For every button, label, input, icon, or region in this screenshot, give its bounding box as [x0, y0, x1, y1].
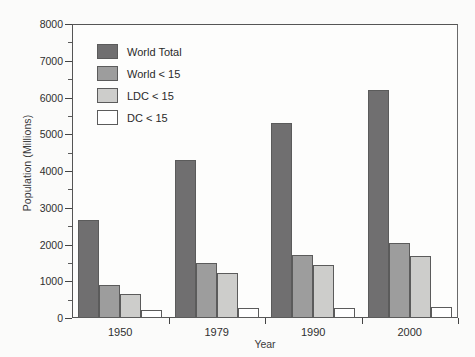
x-axis-tick-label: 1950 — [80, 326, 160, 338]
y-axis-tick-mark — [65, 98, 72, 99]
legend-swatch — [97, 110, 118, 125]
bar — [217, 273, 238, 318]
y-axis-tick-mark — [65, 318, 72, 319]
y-axis-minor-tick — [68, 79, 72, 80]
y-axis-minor-tick — [68, 42, 72, 43]
bar — [368, 90, 389, 318]
legend-label: LDC < 15 — [127, 90, 174, 102]
bar — [238, 308, 259, 318]
bar — [389, 243, 410, 318]
chart-legend: World TotalWorld < 15LDC < 15DC < 15 — [97, 41, 182, 129]
legend-label: World < 15 — [127, 68, 180, 80]
legend-item: DC < 15 — [97, 107, 182, 128]
y-axis-tick-label: 7000 — [5, 55, 63, 67]
y-axis-minor-tick — [68, 300, 72, 301]
y-axis-minor-tick — [68, 116, 72, 117]
bar — [175, 160, 196, 318]
bar — [431, 307, 452, 318]
x-axis-tick-mark — [265, 318, 266, 324]
legend-item: LDC < 15 — [97, 85, 182, 106]
legend-swatch — [97, 66, 118, 81]
x-axis-tick-mark — [169, 318, 170, 324]
x-axis-title: Year — [72, 338, 458, 350]
y-axis-tick-label: 6000 — [5, 92, 63, 104]
y-axis-tick-label: 3000 — [5, 202, 63, 214]
y-axis-tick-mark — [65, 208, 72, 209]
y-axis-tick-label: 4000 — [5, 165, 63, 177]
x-axis-tick-label: 1990 — [273, 326, 353, 338]
legend-swatch — [97, 88, 118, 103]
legend-swatch — [97, 44, 118, 59]
y-axis-tick-mark — [65, 171, 72, 172]
x-axis-tick-mark — [362, 318, 363, 324]
bar — [120, 294, 141, 318]
y-axis-tick-mark — [65, 281, 72, 282]
y-axis-tick-mark — [65, 134, 72, 135]
y-axis-tick-label: 5000 — [5, 128, 63, 140]
bar-chart: Population (Millions) 010002000300040005… — [0, 0, 475, 357]
legend-label: World Total — [127, 46, 182, 58]
bar — [196, 263, 217, 318]
bar — [99, 285, 120, 318]
y-axis-tick-mark — [65, 61, 72, 62]
bar — [78, 220, 99, 318]
x-axis-tick-mark — [458, 318, 459, 324]
bar — [141, 310, 162, 318]
legend-item: World Total — [97, 41, 182, 62]
y-axis-tick-label: 8000 — [5, 18, 63, 30]
bar — [410, 256, 431, 318]
y-axis-tick-label: 0 — [5, 312, 63, 324]
y-axis-tick-label: 2000 — [5, 239, 63, 251]
x-axis-tick-label: 1979 — [177, 326, 257, 338]
y-axis-minor-tick — [68, 189, 72, 190]
y-axis-minor-tick — [68, 226, 72, 227]
bar — [313, 265, 334, 318]
bar — [292, 255, 313, 318]
bar — [271, 123, 292, 318]
y-axis-tick-mark — [65, 24, 72, 25]
y-axis-minor-tick — [68, 153, 72, 154]
y-axis-tick-mark — [65, 245, 72, 246]
bar — [334, 308, 355, 318]
x-axis-tick-label: 2000 — [370, 326, 450, 338]
legend-label: DC < 15 — [127, 112, 168, 124]
y-axis-minor-tick — [68, 263, 72, 264]
y-axis-tick-label: 1000 — [5, 275, 63, 287]
legend-item: World < 15 — [97, 63, 182, 84]
